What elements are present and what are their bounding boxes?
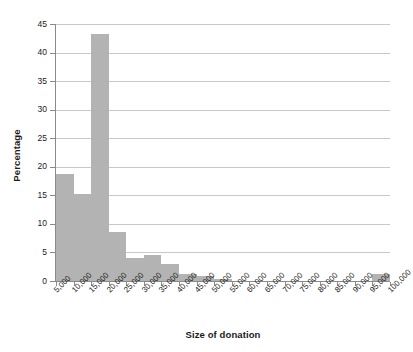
- y-axis-tick: [50, 53, 55, 54]
- y-axis-title: Percentage: [11, 111, 22, 201]
- y-axis-tick-label: 0: [7, 277, 47, 286]
- y-axis-tick: [50, 167, 55, 168]
- y-axis-tick: [50, 252, 55, 253]
- y-axis-tick-label: 35: [7, 77, 47, 86]
- plot-area: [56, 24, 390, 281]
- y-axis-tick-label: 45: [7, 20, 47, 29]
- y-axis-tick: [50, 110, 55, 111]
- y-axis-tick-label: 10: [7, 219, 47, 228]
- y-axis-tick: [50, 224, 55, 225]
- y-axis-tick: [50, 281, 55, 282]
- y-axis-tick-label: 5: [7, 248, 47, 257]
- y-axis-tick: [50, 24, 55, 25]
- y-axis-tick: [50, 195, 55, 196]
- y-axis-tick-label: 15: [7, 191, 47, 200]
- gridline: [56, 24, 390, 25]
- y-axis-tick: [50, 138, 55, 139]
- histogram-bar: [91, 34, 109, 281]
- y-axis-tick: [50, 81, 55, 82]
- histogram-bar: [74, 194, 92, 281]
- y-axis-tick-label: 40: [7, 48, 47, 57]
- y-axis-tick-label: 30: [7, 105, 47, 114]
- y-axis-tick-label: 25: [7, 134, 47, 143]
- x-axis-tick-label: 100,000: [386, 268, 413, 295]
- histogram-bar: [56, 174, 74, 281]
- x-axis-title: Size of donation: [56, 329, 390, 340]
- y-axis-tick-label: 20: [7, 162, 47, 171]
